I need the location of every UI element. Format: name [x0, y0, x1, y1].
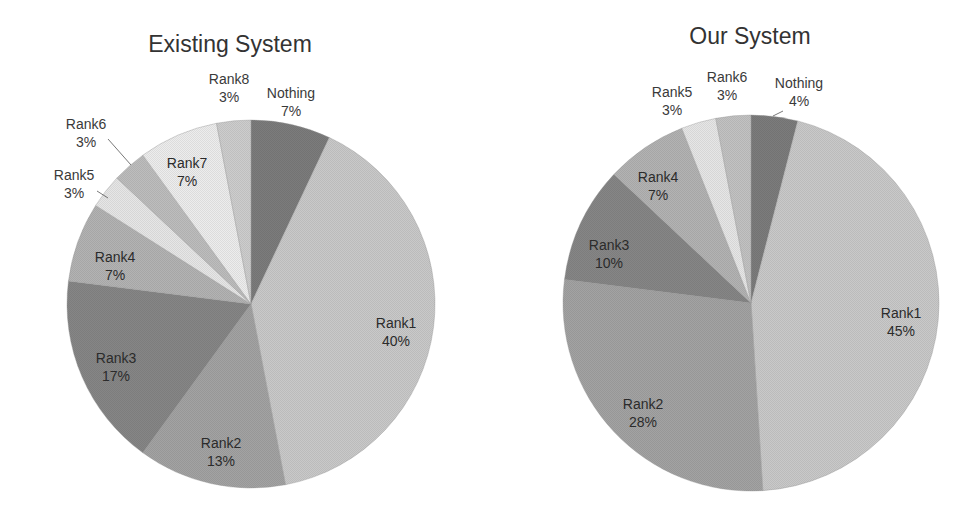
- slice-texture: [563, 279, 763, 491]
- pie-slices: [563, 115, 939, 491]
- pie-chart-our-system: Our System Nothing4%Rank145%Rank228%Rank…: [563, 23, 939, 491]
- leader-line: [773, 111, 783, 116]
- pie-charts-figure: Existing System Nothing7%Rank140%Rank213…: [0, 0, 980, 516]
- slice-label-rank8: Rank83%: [209, 71, 250, 105]
- slice-label-rank6: Rank63%: [707, 69, 748, 103]
- slice-label-rank6: Rank63%: [66, 116, 107, 150]
- leader-line: [108, 139, 131, 165]
- pie-chart-existing-system: Existing System Nothing7%Rank140%Rank213…: [54, 31, 435, 488]
- pie-slices: [67, 120, 435, 488]
- slice-label-nothing: Nothing4%: [775, 75, 823, 109]
- chart-title: Our System: [689, 23, 810, 49]
- slice-label-rank5: Rank53%: [652, 84, 693, 118]
- label-leader-lines: [773, 111, 783, 116]
- slice-label-rank5: Rank53%: [54, 167, 95, 201]
- chart-title: Existing System: [148, 31, 312, 57]
- slice-label-nothing: Nothing7%: [267, 85, 315, 119]
